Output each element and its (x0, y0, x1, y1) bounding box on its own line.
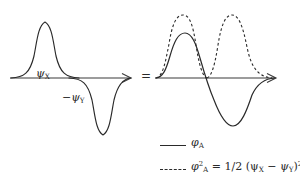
right-panel (155, 15, 276, 126)
phi-a-curve (156, 33, 275, 126)
minus-psi-y-label: −ψY (62, 92, 85, 104)
psi-y-base: ψ (71, 91, 80, 104)
formula-rest-open: = 1/2 (ψ (208, 160, 258, 173)
legend-phi-a-text: φA (191, 136, 204, 150)
legend-item-phi-a: φA (160, 136, 300, 160)
phi-a-squared-lobe-1 (156, 15, 207, 78)
psi-x-label: ψX (36, 68, 50, 80)
minus-psi-y-curve (69, 78, 131, 135)
phi-a-sq-base: φ (191, 160, 199, 173)
legend-solid-line-swatch (160, 145, 186, 146)
psi-x-subscript: X (45, 72, 50, 81)
equals-sign: = (141, 70, 151, 82)
phi-a-base: φ (191, 136, 199, 149)
phi-a-subscript: A (199, 141, 204, 150)
legend-item-phi-a-squared: φ2A = 1/2 (ψX − ψY)2 (160, 160, 300, 184)
psi-y-subscript: Y (80, 96, 85, 105)
phi-a-squared-lobe-2 (207, 15, 272, 78)
legend-dashed-line-swatch (160, 169, 186, 170)
left-panel (10, 22, 131, 135)
legend: φA φ2A = 1/2 (ψX − ψY)2 (160, 136, 300, 184)
legend-phi-a-squared-text: φ2A = 1/2 (ψX − ψY)2 (191, 160, 300, 174)
formula-rest-mid: − ψ (264, 160, 289, 173)
formula-exponent: 2 (298, 160, 300, 168)
psi-x-base: ψ (36, 67, 45, 80)
minus-sign: − (62, 91, 71, 104)
